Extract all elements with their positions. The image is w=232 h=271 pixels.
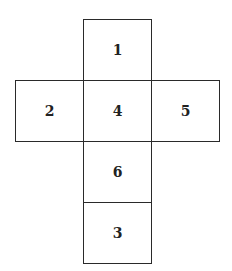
face-label: 1 [113, 42, 123, 58]
face-label: 4 [113, 103, 123, 119]
face-label: 5 [181, 103, 191, 119]
face-5: 5 [151, 80, 220, 142]
face-2: 2 [15, 80, 84, 142]
face-6: 6 [83, 141, 152, 203]
face-label: 6 [113, 164, 123, 180]
face-3: 3 [83, 202, 152, 264]
face-4: 4 [83, 80, 152, 142]
face-1: 1 [83, 19, 152, 81]
face-label: 3 [113, 225, 123, 241]
face-label: 2 [45, 103, 55, 119]
